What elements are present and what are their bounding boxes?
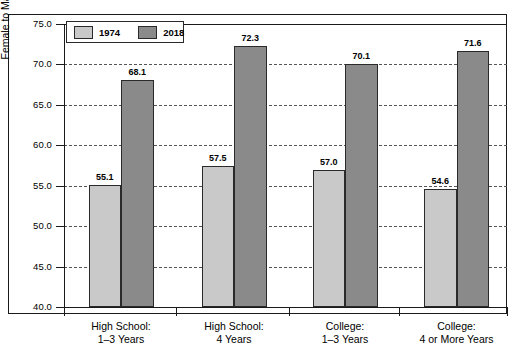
- y-tick-label-50.0: 50.0: [12, 220, 52, 231]
- y-tick-45.0: [56, 267, 65, 268]
- bar-value-label-1974-group3: 57.0: [309, 157, 349, 167]
- legend-swatch-2018: [138, 26, 157, 39]
- x-category-line1: College:: [280, 320, 410, 333]
- y-tick-70.0: [56, 64, 65, 65]
- bar-value-label-2018-group1: 68.1: [117, 67, 157, 77]
- bar-2018-group2: [234, 46, 267, 307]
- bar-value-label-1974-group4: 54.6: [420, 176, 460, 186]
- gridline-40.0: [64, 307, 507, 308]
- x-tick-1: [64, 307, 65, 316]
- x-category-line1: College:: [392, 320, 522, 333]
- x-category-line2: 1–3 Years: [56, 333, 186, 346]
- bar-value-label-2018-group4: 71.6: [453, 38, 493, 48]
- x-category-label-1: High School:1–3 Years: [56, 320, 186, 346]
- bar-value-label-2018-group3: 70.1: [341, 51, 381, 61]
- y-tick-label-65.0: 65.0: [12, 99, 52, 110]
- y-tick-65.0: [56, 105, 65, 106]
- bar-value-label-2018-group2: 72.3: [230, 33, 270, 43]
- y-tick-60.0: [56, 145, 65, 146]
- x-tick-4: [399, 307, 400, 316]
- bar-value-label-1974-group1: 55.1: [85, 172, 125, 182]
- chart-legend[interactable]: 1974 2018: [66, 21, 184, 43]
- x-category-label-3: College:1–3 Years: [280, 320, 410, 346]
- legend-label-1974: 1974: [99, 27, 120, 38]
- legend-label-2018: 2018: [163, 27, 184, 38]
- x-tick-3: [289, 307, 290, 316]
- x-category-label-4: College:4 or More Years: [392, 320, 522, 346]
- y-tick-50.0: [56, 226, 65, 227]
- bar-1974-group3: [313, 170, 346, 307]
- y-tick-label-55.0: 55.0: [12, 180, 52, 191]
- x-category-line2: 4 or More Years: [392, 333, 522, 346]
- bar-value-label-1974-group2: 57.5: [198, 153, 238, 163]
- y-tick-label-75.0: 75.0: [12, 18, 52, 29]
- y-axis-title: Female to Male Ratio (%): [0, 0, 11, 80]
- y-tick-label-70.0: 70.0: [12, 58, 52, 69]
- y-tick-55.0: [56, 186, 65, 187]
- bar-2018-group1: [121, 80, 154, 307]
- x-category-line2: 1–3 Years: [280, 333, 410, 346]
- chart-figure: Female to Male Ratio (%) 75.070.065.060.…: [0, 0, 532, 359]
- gridline-70.0: [64, 64, 507, 65]
- x-category-line1: High School:: [56, 320, 186, 333]
- legend-swatch-1974: [74, 26, 93, 39]
- y-tick-label-60.0: 60.0: [12, 139, 52, 150]
- x-tick-5: [507, 307, 508, 316]
- y-tick-label-45.0: 45.0: [12, 261, 52, 272]
- bar-1974-group2: [202, 166, 235, 308]
- bar-1974-group4: [424, 189, 457, 307]
- bar-2018-group3: [345, 64, 378, 307]
- bar-2018-group4: [457, 51, 490, 307]
- y-tick-label-40.0: 40.0: [12, 301, 52, 312]
- bar-1974-group1: [89, 185, 122, 307]
- x-tick-2: [176, 307, 177, 316]
- y-tick-75.0: [56, 24, 65, 25]
- y-axis-line: [64, 24, 65, 307]
